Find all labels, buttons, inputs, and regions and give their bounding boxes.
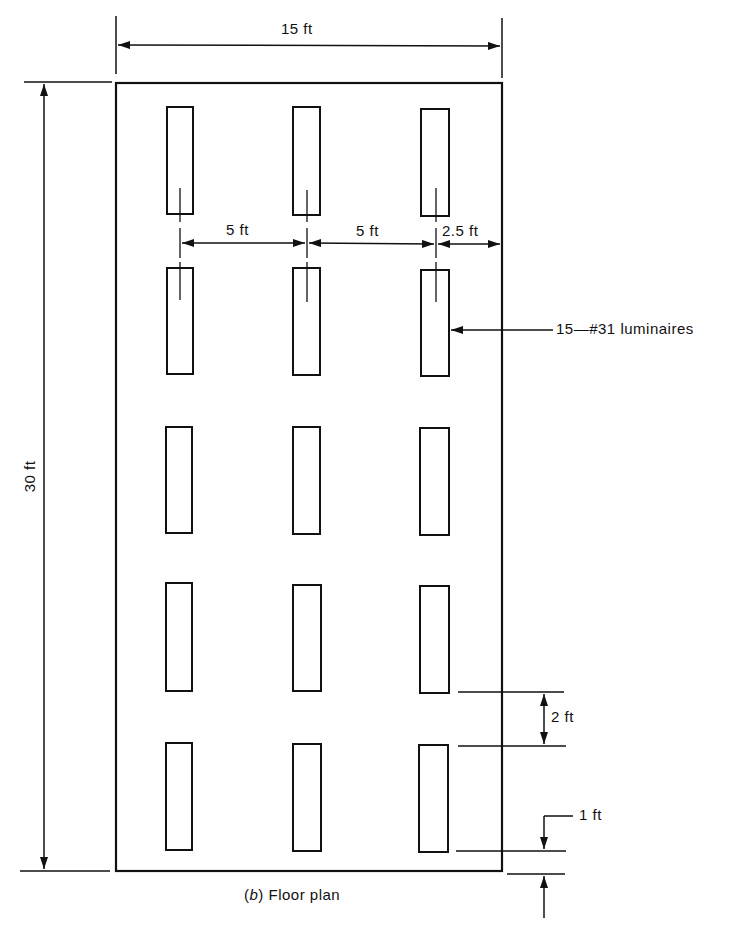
luminaire [293, 427, 320, 534]
row-gap-label: 2 ft [551, 708, 574, 725]
row-gap-dimension [458, 692, 566, 746]
floor-plan-drawing [0, 0, 738, 929]
luminaire [420, 428, 449, 535]
luminaires-callout-label: 15—#31 luminaires [556, 320, 694, 337]
luminaire [166, 427, 192, 533]
luminaire [420, 586, 449, 693]
luminaire [293, 744, 321, 851]
room-length-label: 30 ft [21, 461, 38, 493]
end-offset-label: 1 ft [579, 806, 602, 823]
luminaire [166, 743, 192, 850]
spacing-2-label: 5 ft [356, 222, 379, 239]
luminaire [293, 585, 321, 691]
figure-caption: (b) Floor plan [244, 886, 340, 903]
end-offset-dimension [456, 816, 573, 918]
spacing-dimensions [182, 243, 500, 244]
centerlines [180, 188, 436, 302]
caption-text: ) Floor plan [258, 886, 340, 903]
luminaire [421, 109, 449, 216]
wall-offset-label: 2.5 ft [442, 222, 478, 239]
luminaire [419, 745, 448, 852]
room-outline [116, 83, 502, 871]
luminaire [421, 270, 449, 376]
room-width-label: 15 ft [281, 20, 313, 37]
luminaire [166, 583, 192, 691]
spacing-1-label: 5 ft [226, 221, 249, 238]
